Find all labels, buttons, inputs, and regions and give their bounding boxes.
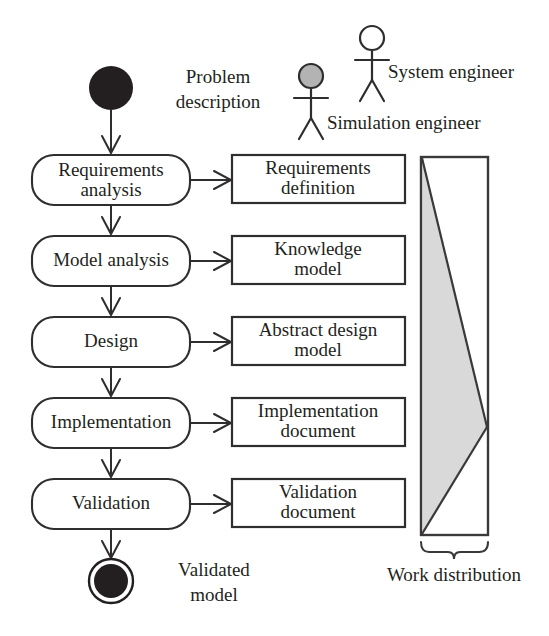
system-engineer-leg-left-icon	[360, 80, 372, 101]
artifact-label-1-line1: Knowledge	[274, 238, 362, 259]
simulation-engineer-label: Simulation engineer	[327, 112, 481, 133]
artifact-connector-3	[190, 414, 231, 432]
activity-label-3: Implementation	[51, 411, 172, 432]
artifact-node-0[interactable]: Requirements definition	[232, 155, 405, 203]
actor-simulation-engineer[interactable]	[294, 64, 328, 139]
activity-node-3[interactable]: Implementation	[32, 398, 190, 448]
activity-node-4[interactable]: Validation	[32, 479, 190, 529]
activity-label-1: Model analysis	[53, 249, 169, 270]
artifact-connector-1	[190, 252, 231, 270]
artifact-connector-0	[190, 171, 231, 189]
work-distribution-brace	[421, 542, 488, 559]
activity-node-0[interactable]: Requirements analysis	[32, 155, 190, 205]
flow-connector-3-4	[102, 448, 120, 477]
artifact-node-4[interactable]: Validation document	[232, 479, 405, 527]
artifact-label-1-line2: model	[294, 258, 342, 279]
flow-connector-2-3	[102, 367, 120, 396]
artifact-label-0-line2: definition	[281, 177, 355, 198]
problem-description-label-line1: Problem	[186, 66, 251, 87]
problem-description-label-line2: description	[176, 91, 261, 112]
validated-model-label-line2: model	[190, 584, 238, 605]
start-node-circle	[89, 66, 133, 110]
artifact-label-2-line1: Abstract design	[259, 319, 378, 340]
system-engineer-label: System engineer	[388, 61, 515, 82]
artifact-label-0-line1: Requirements	[265, 157, 371, 178]
work-distribution-panel[interactable]	[421, 157, 488, 535]
artifact-label-2-line2: model	[294, 339, 342, 360]
activity-label-0-line2: analysis	[80, 179, 141, 200]
flow-connector-0-1	[102, 205, 120, 234]
artifact-node-2[interactable]: Abstract design model	[232, 317, 405, 365]
start-node[interactable]	[89, 66, 133, 153]
activity-node-1[interactable]: Model analysis	[32, 236, 190, 286]
simulation-engineer-head-icon	[299, 64, 323, 88]
artifact-connector-4	[190, 495, 231, 513]
artifact-connector-2	[190, 333, 231, 351]
flow-connector-1-2	[102, 286, 120, 315]
end-node-circle	[94, 564, 128, 598]
system-engineer-leg-right-icon	[372, 80, 384, 101]
artifact-node-3[interactable]: Implementation document	[232, 398, 405, 446]
diagram-canvas: Problem description Simulation engineer …	[0, 0, 549, 636]
artifact-label-3-line1: Implementation	[258, 400, 379, 421]
activity-label-0-line1: Requirements	[58, 159, 164, 180]
artifact-label-4-line1: Validation	[279, 481, 358, 502]
simulation-engineer-leg-left-icon	[299, 118, 311, 139]
end-node[interactable]	[89, 529, 133, 603]
validated-model-label-line1: Validated	[178, 559, 250, 580]
actor-system-engineer[interactable]	[355, 26, 389, 101]
system-engineer-head-icon	[360, 26, 384, 50]
work-distribution-caption: Work distribution	[387, 564, 522, 585]
activity-node-2[interactable]: Design	[32, 317, 190, 367]
simulation-engineer-leg-right-icon	[311, 118, 323, 139]
activity-label-4: Validation	[72, 492, 151, 513]
artifact-label-4-line2: document	[281, 501, 357, 522]
artifact-label-3-line2: document	[281, 420, 357, 441]
artifact-node-1[interactable]: Knowledge model	[232, 236, 405, 284]
activity-label-2: Design	[84, 330, 138, 351]
activity-diagram: Problem description Simulation engineer …	[0, 0, 549, 636]
